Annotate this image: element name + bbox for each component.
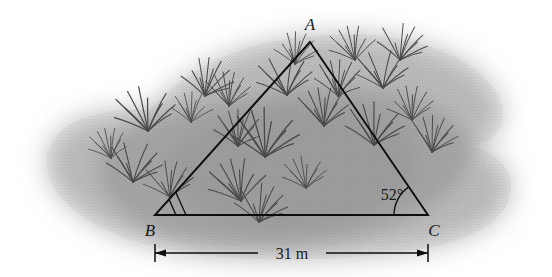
field-halftone-texture [0,0,552,277]
angle-label-c: 52° [381,186,403,203]
vertex-label-c: C [428,221,440,240]
field-background [0,0,552,277]
figure-canvas: 31 m A B C 52° [0,0,552,277]
dimension-arrowhead-left [155,249,166,256]
geometry-figure: 31 m A B C 52° [0,0,552,277]
vertex-label-b: B [145,221,156,240]
dimension-label: 31 m [276,245,309,262]
dimension-arrowhead-right [417,249,428,256]
vertex-label-a: A [304,15,316,34]
